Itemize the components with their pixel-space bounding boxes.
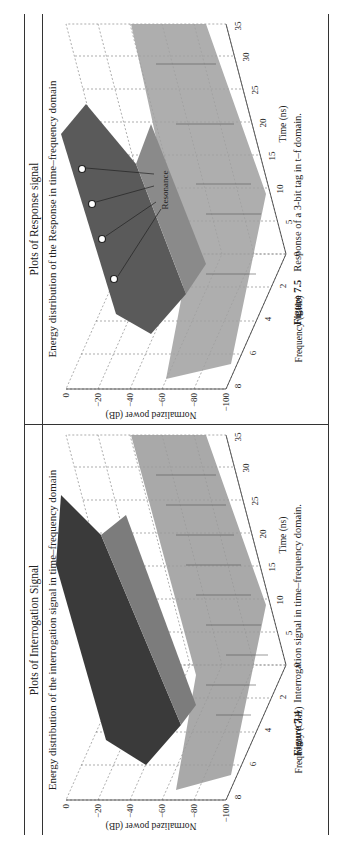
svg-text:8: 8 bbox=[233, 794, 243, 799]
svg-text:Time (ns): Time (ns) bbox=[278, 106, 289, 143]
svg-text:0: 0 bbox=[61, 393, 71, 398]
svg-text:25: 25 bbox=[250, 496, 260, 506]
svg-text:−80: −80 bbox=[189, 393, 199, 408]
resonance-marker bbox=[89, 201, 96, 208]
svg-text:8: 8 bbox=[233, 383, 243, 388]
svg-text:−40: −40 bbox=[125, 804, 135, 819]
svg-text:4: 4 bbox=[263, 727, 273, 732]
figure-label: Figure 7.4 bbox=[292, 711, 303, 756]
svg-text:−20: −20 bbox=[93, 804, 103, 819]
caption-text: Response of a 3-bit tag in t–f domain. bbox=[292, 113, 303, 272]
z-axis-label: Normalized power (dB) bbox=[106, 820, 197, 831]
interrogation-3d-plot: 0−20−40 −60−80−100 Normalized power (dB)… bbox=[56, 425, 306, 835]
svg-text:30: 30 bbox=[241, 52, 251, 62]
interrogation-panel: Plots of Interrogation Signal Energy dis… bbox=[0, 425, 350, 835]
svg-text:−40: −40 bbox=[125, 393, 135, 408]
response-panel: Plots of Response signal Energy distribu… bbox=[0, 14, 350, 424]
figure-caption: Figure 7.4Interrogation signal in time–f… bbox=[292, 425, 303, 835]
svg-text:6: 6 bbox=[248, 350, 258, 355]
figure-caption: Figure 7.5Response of a 3-bit tag in t–f… bbox=[292, 14, 303, 424]
caption-text: Interrogation signal in time–frequency d… bbox=[292, 504, 303, 703]
panel-title: Plots of Response signal bbox=[28, 14, 40, 424]
svg-text:0: 0 bbox=[61, 804, 71, 809]
svg-text:2: 2 bbox=[278, 695, 288, 700]
svg-text:20: 20 bbox=[258, 118, 268, 128]
resonance-annotation: Resonance bbox=[160, 171, 170, 210]
svg-text:−60: −60 bbox=[157, 804, 167, 819]
svg-text:Time (ns): Time (ns) bbox=[278, 517, 289, 554]
svg-text:−100: −100 bbox=[221, 804, 231, 823]
book-page: Plots of Interrogation Signal Energy dis… bbox=[0, 0, 350, 849]
svg-text:30: 30 bbox=[241, 463, 251, 473]
response-3d-plot: Resonance 0−20−40 −60−80−100 Normalized … bbox=[56, 14, 306, 424]
svg-text:35: 35 bbox=[233, 432, 243, 442]
panel-title: Plots of Interrogation Signal bbox=[28, 425, 40, 835]
svg-text:2: 2 bbox=[278, 284, 288, 289]
svg-text:−20: −20 bbox=[93, 393, 103, 408]
svg-text:−60: −60 bbox=[157, 393, 167, 408]
resonance-marker bbox=[79, 166, 86, 173]
figure-label: Figure 7.5 bbox=[292, 280, 303, 325]
svg-text:−80: −80 bbox=[189, 804, 199, 819]
z-axis-label: Normalized power (dB) bbox=[106, 409, 197, 420]
svg-text:10: 10 bbox=[275, 184, 285, 194]
svg-text:15: 15 bbox=[267, 562, 277, 572]
svg-text:35: 35 bbox=[233, 21, 243, 31]
resonance-marker bbox=[111, 276, 118, 283]
svg-text:−100: −100 bbox=[221, 393, 231, 412]
svg-text:10: 10 bbox=[275, 595, 285, 605]
svg-text:25: 25 bbox=[250, 85, 260, 95]
svg-text:6: 6 bbox=[248, 761, 258, 766]
resonance-marker bbox=[99, 236, 106, 243]
svg-text:4: 4 bbox=[263, 316, 273, 321]
svg-text:20: 20 bbox=[258, 529, 268, 539]
svg-text:15: 15 bbox=[267, 151, 277, 161]
